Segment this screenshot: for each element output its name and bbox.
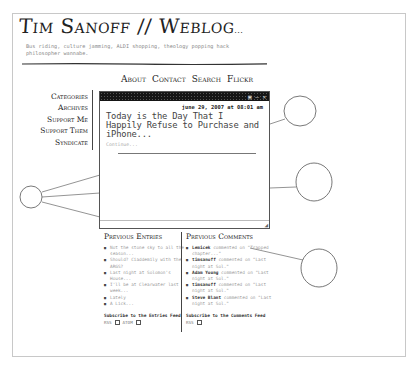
- nav-flickr[interactable]: Flickr: [227, 74, 253, 84]
- feed-icon[interactable]: [197, 320, 202, 325]
- post-date: june 29, 2007 at 08:01 am: [100, 101, 269, 110]
- entries-subscribe-label: Subscribe to the Entries Feed: [104, 313, 186, 318]
- list-item[interactable]: timsanoff commented on "Last night at So…: [186, 282, 278, 294]
- nav-search[interactable]: Search: [192, 74, 221, 84]
- site-title-text: Tim Sanoff // Weblog: [18, 14, 235, 38]
- entries-feed-links: RSS ATOM: [104, 320, 186, 325]
- sidebar-item-archives[interactable]: Archives: [26, 102, 88, 113]
- comment-author: Adam Young: [192, 270, 218, 275]
- previous-comments: Previous Comments Lemicek commented on "…: [186, 232, 278, 325]
- post-titlebar[interactable]: ▣ — ✕: [100, 92, 269, 101]
- resize-grip-icon[interactable]: ◢: [264, 221, 268, 228]
- post-footer: ◢: [100, 220, 269, 228]
- comments-feed-links: RSS: [186, 320, 278, 325]
- nav-about[interactable]: About: [121, 74, 146, 84]
- comment-author: timsanoff: [192, 257, 216, 262]
- window-controls-icon[interactable]: ▣ — ✕: [248, 92, 266, 101]
- previous-comments-heading: Previous Comments: [186, 232, 278, 241]
- site-title-suffix: ...: [234, 26, 244, 35]
- list-item[interactable]: Should? Ciaddemily with the ARGS?: [104, 257, 186, 269]
- top-nav: About Contact Search Flickr: [121, 74, 253, 84]
- post-window: ▣ — ✕ june 29, 2007 at 08:01 am Today is…: [99, 91, 270, 229]
- sidebar: Categories Archives Support Me Support T…: [26, 91, 88, 148]
- sidebar-divider: [92, 90, 93, 150]
- list-item[interactable]: Steve Blant commented on "Last night at …: [186, 295, 278, 307]
- sidebar-item-syndicate[interactable]: Syndicate: [26, 137, 88, 148]
- sidebar-item-categories[interactable]: Categories: [26, 91, 88, 102]
- sidebar-item-support-them[interactable]: Support Them: [26, 125, 88, 136]
- previous-entries: Previous Entries Not the stone sky to al…: [104, 232, 186, 325]
- comments-subscribe-label: Subscribe to the Comments Feed: [186, 313, 278, 318]
- site-title[interactable]: Tim Sanoff // Weblog...: [18, 14, 245, 38]
- comment-author: timsanoff: [192, 282, 216, 287]
- post-divider: [118, 153, 256, 154]
- feed-icon[interactable]: [115, 320, 120, 325]
- site-tagline: Bus riding, culture jamming, ALDI shoppi…: [26, 43, 246, 56]
- nav-contact[interactable]: Contact: [152, 74, 186, 84]
- sidebar-item-support-me[interactable]: Support Me: [26, 114, 88, 125]
- list-item[interactable]: Adam Young commented on "Last night at S…: [186, 270, 278, 282]
- atom-link[interactable]: ATOM: [123, 320, 133, 325]
- list-item[interactable]: A Lick...: [104, 301, 186, 307]
- rss-link[interactable]: RSS: [186, 320, 194, 325]
- comment-author: Steve Blant: [192, 295, 221, 300]
- list-item[interactable]: Not the stone sky to all the season...: [104, 245, 186, 257]
- list-item[interactable]: Last night at Solomon's House...: [104, 270, 186, 282]
- feed-icon[interactable]: [136, 320, 141, 325]
- list-item[interactable]: I'll be at Clearwater last week...: [104, 282, 186, 294]
- column-divider: [181, 232, 182, 332]
- rss-link[interactable]: RSS: [104, 320, 112, 325]
- post-title[interactable]: Today is the Day That I Happily Refuse t…: [100, 110, 269, 139]
- header-divider: [22, 63, 267, 65]
- list-item[interactable]: Lemicek commented on "Trapped chapter...…: [186, 245, 278, 257]
- post-continue-link[interactable]: Continue...: [100, 139, 269, 147]
- comment-author: Lemicek: [192, 245, 211, 250]
- previous-entries-heading: Previous Entries: [104, 232, 186, 241]
- list-item[interactable]: timsanoff commented on "Last night at So…: [186, 257, 278, 269]
